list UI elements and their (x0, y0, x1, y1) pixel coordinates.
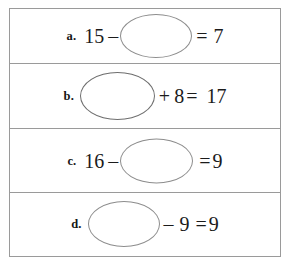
equals-sign-b: = (186, 86, 197, 106)
equation-d: d. – 9 = 9 (10, 201, 280, 247)
answer-blank-oval-b[interactable] (80, 72, 155, 120)
item-label-a: a. (67, 29, 77, 44)
answer-blank-oval-a[interactable] (120, 14, 192, 58)
equation-c: c. 16 – = 9 (10, 138, 280, 183)
result-d: 9 (209, 214, 219, 234)
operator-a: – (108, 26, 118, 46)
table-row: a. 15 – = 7 (10, 9, 280, 64)
answer-blank-oval-d[interactable] (88, 201, 160, 247)
item-label-b: b. (64, 89, 74, 104)
table-row: b. + 8 = 17 (10, 64, 280, 129)
item-label-d: d. (71, 217, 81, 232)
equation-b: b. + 8 = 17 (10, 72, 280, 120)
table-row: c. 16 – = 9 (10, 129, 280, 193)
equals-sign-c: = (199, 151, 210, 171)
table-row: d. – 9 = 9 (10, 193, 280, 255)
equation-a: a. 15 – = 7 (10, 14, 280, 58)
operator-b: + (159, 86, 170, 106)
operator-d: – (164, 214, 174, 234)
result-c: 9 (213, 151, 223, 171)
operator-c: – (108, 151, 118, 171)
left-operand-c: 16 (84, 151, 104, 171)
right-operand-b: 8 (174, 86, 184, 106)
item-label-c: c. (67, 153, 76, 168)
worksheet-table: a. 15 – = 7 b. + 8 = 17 (9, 8, 281, 257)
right-operand-d: 9 (180, 214, 190, 234)
answer-blank-oval-c[interactable] (120, 138, 193, 183)
left-operand-a: 15 (84, 26, 104, 46)
equals-sign-d: = (196, 214, 207, 234)
equals-sign-a: = (196, 26, 207, 46)
result-b: 17 (206, 86, 226, 106)
result-a: 7 (213, 26, 223, 46)
